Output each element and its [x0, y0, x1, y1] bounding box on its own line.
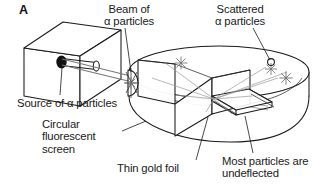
panel-letter: A: [19, 3, 28, 17]
label-screen-line1: Circular: [42, 118, 96, 130]
figure-panel: .s {fill:none;stroke:#1a1a1a;stroke-widt…: [0, 0, 332, 196]
alpha-source-dot: [56, 56, 66, 69]
label-most-line2: undeflected: [222, 167, 308, 179]
label-most-line1: Most particles are: [222, 155, 308, 167]
label-screen-line2: fluorescent: [42, 130, 96, 142]
label-beam-line1: Beam of: [104, 3, 154, 15]
source-box: [24, 22, 121, 106]
flash-icon: [175, 57, 187, 69]
label-beam-line2: α particles: [104, 15, 154, 27]
label-circular-fluorescent-screen: Circular fluorescent screen: [42, 118, 96, 155]
label-beam-of-alpha-particles: Beam of α particles: [104, 3, 154, 28]
label-screen-line3: screen: [42, 143, 96, 155]
label-foil-line1: Thin gold foil: [117, 162, 179, 174]
flash-icon: [126, 78, 137, 89]
label-source-of-alpha-particles: Source of α particles: [17, 97, 117, 109]
label-scattered-alpha-particles: Scattered α particles: [215, 3, 265, 28]
label-most-particles-undeflected: Most particles are undeflected: [222, 155, 308, 180]
label-scattered-line1: Scattered: [215, 3, 265, 15]
label-source-line1: Source of α particles: [17, 97, 117, 109]
flash-icon: [280, 72, 293, 85]
label-thin-gold-foil: Thin gold foil: [117, 162, 179, 174]
label-scattered-line2: α particles: [215, 15, 265, 27]
